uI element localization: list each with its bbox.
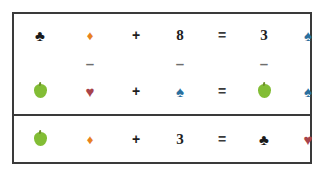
equals-operator: = (218, 83, 226, 99)
cell-r3-c5: = (202, 126, 242, 152)
minus-operator: – (260, 55, 268, 72)
cell-r2-c3: + (114, 78, 158, 104)
heart-icon: ♥ (304, 132, 313, 147)
heart-icon: ♥ (86, 84, 95, 99)
cell-rm-c6: – (242, 50, 286, 76)
cell-r3-c1 (14, 126, 66, 152)
cell-r2-c5: = (202, 78, 242, 104)
equation-row-3: ♦ + 3 = ♣ ♥ (14, 126, 310, 152)
cell-r3-c6: ♣ (242, 126, 286, 152)
cell-r1-c7: ♠ (286, 22, 325, 48)
cell-rm-c4: – (158, 50, 202, 76)
equation-row-2: ♥ + ♠ = ♠ (14, 78, 310, 104)
diamond-icon: ♦ (87, 29, 94, 42)
green-apple-icon (258, 84, 271, 98)
number-value: 3 (176, 131, 184, 148)
diamond-icon: ♦ (87, 133, 94, 146)
puzzle-section-top: ♣ ♦ + 8 = 3 ♠ – – – ♥ + ♠ = ♠ (14, 14, 310, 116)
equals-operator: = (218, 27, 226, 43)
green-apple-icon (34, 84, 47, 98)
cell-r3-c2: ♦ (66, 126, 114, 152)
operator-row-minus: – – – (14, 50, 310, 76)
cell-r3-c4: 3 (158, 126, 202, 152)
cell-rm-c2: – (66, 50, 114, 76)
club-icon: ♣ (259, 132, 269, 147)
plus-operator: + (132, 27, 140, 43)
spade-icon: ♠ (304, 84, 312, 99)
cell-r1-c4: 8 (158, 22, 202, 48)
plus-operator: + (132, 131, 140, 147)
cell-r2-c7: ♠ (286, 78, 325, 104)
cell-rm-c3 (114, 50, 158, 76)
plus-operator: + (132, 83, 140, 99)
minus-operator: – (86, 55, 94, 72)
club-icon: ♣ (35, 28, 45, 43)
minus-operator: – (176, 55, 184, 72)
cell-r3-c3: + (114, 126, 158, 152)
cell-rm-c1 (14, 50, 66, 76)
apple-stem-icon (38, 82, 41, 86)
cell-r1-c1: ♣ (14, 22, 66, 48)
number-value: 3 (260, 27, 268, 44)
cell-r1-c3: + (114, 22, 158, 48)
cell-rm-c5 (202, 50, 242, 76)
number-value: 8 (176, 27, 184, 44)
equation-row-1: ♣ ♦ + 8 = 3 ♠ (14, 22, 310, 48)
cell-r2-c4: ♠ (158, 78, 202, 104)
cell-r1-c2: ♦ (66, 22, 114, 48)
cell-r3-c7: ♥ (286, 126, 325, 152)
green-apple-icon (34, 132, 47, 146)
apple-stem-icon (38, 130, 41, 134)
cell-rm-c7 (286, 50, 325, 76)
equals-operator: = (218, 131, 226, 147)
spade-icon: ♠ (304, 28, 312, 43)
cell-r1-c5: = (202, 22, 242, 48)
cell-r2-c6 (242, 78, 286, 104)
puzzle-section-bottom: ♦ + 3 = ♣ ♥ (14, 116, 310, 164)
spade-icon: ♠ (176, 84, 184, 99)
cell-r2-c1 (14, 78, 66, 104)
cell-r2-c2: ♥ (66, 78, 114, 104)
cell-r1-c6: 3 (242, 22, 286, 48)
puzzle-frame: ♣ ♦ + 8 = 3 ♠ – – – ♥ + ♠ = ♠ (12, 12, 312, 164)
apple-stem-icon (262, 82, 265, 86)
